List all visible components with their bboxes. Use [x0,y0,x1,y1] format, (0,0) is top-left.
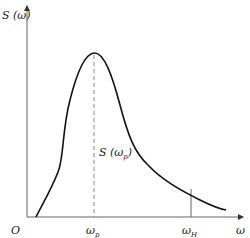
spectrum-curve [36,53,226,217]
y-axis-label: S (ω) [2,9,31,22]
omega-p-tick-label: ωp [86,224,100,238]
x-axis-label: ω [236,224,245,237]
omega-h-tick-label: ωH [182,224,198,238]
spectrum-diagram: S (ω) O ω S (ωp) ωp ωH [0,0,250,238]
peak-label: S (ωp) [99,146,132,161]
origin-label: O [11,224,20,237]
